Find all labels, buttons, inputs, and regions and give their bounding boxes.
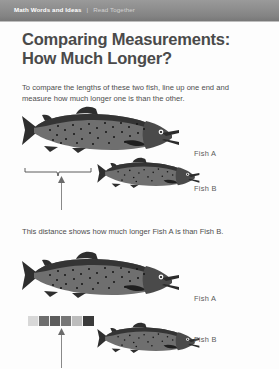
fish-b-illustration-top [96, 156, 200, 190]
intro-paragraph: To compare the lengths of these two fish… [22, 82, 260, 105]
up-arrow-bottom [57, 328, 66, 369]
worksheet-page: Math Words and Ideas | Read Together Com… [0, 0, 279, 369]
fish-b-label-top: Fish B [194, 184, 217, 193]
unit-cube [61, 316, 72, 326]
fish-svg [20, 251, 180, 299]
page-title-line1: Comparing Measurements: [22, 30, 230, 48]
fish-svg [96, 321, 200, 355]
unit-cube [50, 316, 61, 326]
fish-svg [96, 156, 200, 190]
fish-b-label-bottom: Fish B [194, 335, 217, 344]
breadcrumb-item-math-words-and-ideas[interactable]: Math Words and Ideas [14, 6, 82, 13]
fish-a-illustration-top [20, 106, 180, 154]
fish-a-illustration-bottom [20, 251, 180, 299]
page-title: Comparing Measurements: How Much Longer? [22, 30, 258, 68]
breadcrumb: Math Words and Ideas | Read Together [14, 6, 135, 13]
up-arrow-icon [57, 176, 66, 210]
middle-paragraph: This distance shows how much longer Fish… [22, 226, 252, 238]
up-arrow-top [57, 176, 66, 214]
unit-cube [83, 316, 94, 326]
page-content: Comparing Measurements: How Much Longer?… [0, 22, 279, 369]
breadcrumb-bar: Math Words and Ideas | Read Together [0, 0, 279, 22]
breadcrumb-item-read-together[interactable]: Read Together [93, 6, 135, 13]
fish-svg [20, 106, 180, 154]
fish-b-illustration-bottom [96, 321, 200, 355]
page-title-line2: How Much Longer? [22, 49, 258, 68]
breadcrumb-separator: | [87, 6, 89, 13]
fish-a-label-bottom: Fish A [194, 294, 216, 303]
unit-cubes-strip [28, 316, 94, 326]
unit-cube [39, 316, 50, 326]
unit-cube [28, 316, 39, 326]
unit-cube [72, 316, 83, 326]
up-arrow-icon [57, 328, 66, 368]
